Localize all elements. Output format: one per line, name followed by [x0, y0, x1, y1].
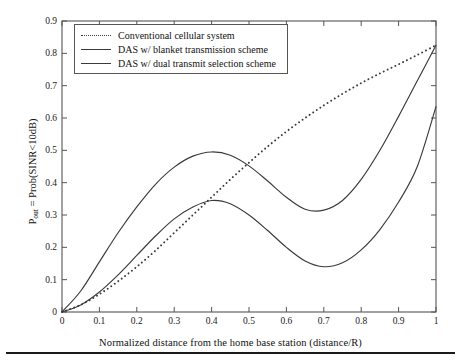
y-tick-label: 0.1 [30, 275, 57, 285]
x-tick-label: 0.9 [393, 316, 405, 326]
legend-swatch-solid-dual-icon [79, 57, 113, 69]
x-tick-label: 0.1 [93, 316, 105, 326]
legend-item-conventional: Conventional cellular system [79, 28, 283, 42]
x-tick-label: 1 [434, 316, 439, 326]
x-tick-label: 0.7 [318, 316, 330, 326]
y-axis-title-rest: = Prob(SINR<10dB) [27, 118, 38, 209]
x-tick-label: 0.5 [243, 316, 255, 326]
legend-item-dual: DAS w/ dual transmit selection scheme [79, 56, 283, 70]
y-tick-label: 0.9 [30, 16, 57, 26]
legend-label-blanket: DAS w/ blanket transmission scheme [118, 43, 268, 56]
legend-label-dual: DAS w/ dual transmit selection scheme [118, 57, 276, 70]
y-axis-title-base: P [27, 219, 38, 225]
y-axis-title: Pout = Prob(SINR<10dB) [27, 72, 38, 272]
legend-item-blanket: DAS w/ blanket transmission scheme [79, 42, 283, 56]
x-tick-label: 0.8 [355, 316, 367, 326]
y-tick-label: 0 [30, 307, 57, 317]
footer-divider [6, 352, 455, 354]
legend: Conventional cellular system DAS w/ blan… [74, 24, 288, 74]
legend-swatch-solid-blanket-icon [79, 43, 113, 55]
legend-label-conventional: Conventional cellular system [118, 29, 235, 42]
y-tick-label: 0.8 [30, 48, 57, 58]
x-tick-label: 0.3 [168, 316, 180, 326]
figure-container: 00.10.20.30.40.50.60.70.80.91 00.10.20.3… [0, 0, 461, 363]
legend-swatch-dotted-icon [79, 29, 113, 41]
y-axis-title-subscript: out [31, 209, 40, 219]
x-tick-label: 0.6 [280, 316, 292, 326]
x-tick-label: 0.2 [131, 316, 143, 326]
x-axis-title: Normalized distance from the home base s… [0, 337, 461, 348]
x-tick-label: 0 [60, 316, 65, 326]
x-tick-label: 0.4 [206, 316, 218, 326]
